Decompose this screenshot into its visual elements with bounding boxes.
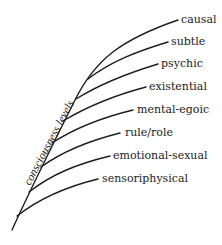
level-label-sensoriphysical: sensoriphysical — [102, 172, 189, 185]
axis-label: consciousness levels — [21, 98, 76, 187]
level-label-mental-egoic: mental-egoic — [137, 103, 209, 116]
branch-psychic — [76, 64, 158, 99]
level-label-psychic: psychic — [161, 57, 203, 70]
level-label-existential: existential — [149, 80, 207, 93]
consciousness-levels-diagram: consciousness levels causal subtle psych… — [0, 0, 222, 245]
main-stem — [12, 20, 178, 230]
level-label-rule-role: rule/role — [125, 126, 173, 139]
level-label-emotional-sexual: emotional-sexual — [113, 149, 208, 162]
level-label-causal: causal — [181, 13, 217, 26]
level-label-subtle: subtle — [171, 35, 205, 48]
